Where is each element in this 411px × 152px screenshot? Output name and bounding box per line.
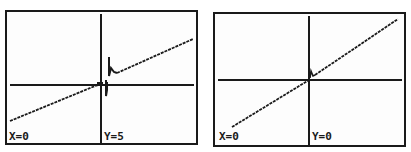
graph-plot-right [215, 14, 404, 145]
graph-line-upper [315, 19, 398, 75]
trace-marker [310, 71, 315, 78]
x-coordinate-label: X=0 [219, 131, 239, 142]
x-coordinate-label: X=0 [9, 131, 29, 142]
graph-screen-right: X=0 Y=0 [213, 12, 406, 147]
graph-curve-lower [10, 85, 98, 121]
graph-line-lower [232, 80, 309, 127]
y-coordinate-label: Y=5 [104, 131, 124, 142]
graph-plot-left [7, 12, 196, 143]
graph-curve-upper [117, 39, 193, 73]
graph-spike-up [109, 57, 117, 76]
graph-spike-down [106, 80, 107, 96]
y-coordinate-label: Y=0 [312, 131, 332, 142]
graph-screen-left: X=0 Y=5 [5, 10, 198, 145]
